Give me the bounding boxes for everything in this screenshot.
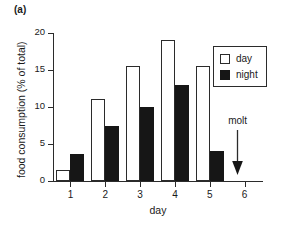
bar-day-day-2 (91, 99, 105, 181)
bar-day-day-5 (196, 66, 210, 181)
x-tick-label-3: 3 (130, 190, 150, 200)
x-axis-line (53, 181, 263, 182)
x-tick-label-2: 2 (95, 190, 115, 200)
x-tick-label-4: 4 (165, 190, 185, 200)
y-tick-label-20: 20 (34, 27, 45, 37)
bar-day-day-4 (161, 40, 175, 181)
x-tick-2 (105, 182, 106, 187)
y-tick-0: 0 (48, 181, 53, 182)
legend-label-day: day (236, 54, 252, 64)
x-tick-label-6: 6 (235, 190, 255, 200)
molt-label: molt (215, 116, 261, 126)
x-tick-6 (245, 182, 246, 187)
x-tick-1 (70, 182, 71, 187)
x-tick-3 (140, 182, 141, 187)
x-tick-4 (175, 182, 176, 187)
legend-label-night: night (236, 70, 258, 80)
bar-day-day-1 (56, 170, 70, 181)
legend-item-day: day (220, 52, 258, 65)
figure-panel-a: (a) 05101520 day food consumption (% of … (0, 0, 293, 229)
legend-swatch-day-icon (220, 54, 230, 64)
y-tick-label-10: 10 (34, 101, 45, 111)
legend-swatch-night-icon (220, 70, 230, 80)
y-axis-title: food consumption (% of total) (16, 18, 30, 178)
x-axis-title: day (53, 205, 263, 216)
bar-night-day-2 (105, 126, 119, 182)
panel-label: (a) (14, 5, 26, 15)
y-tick-label-5: 5 (40, 138, 45, 148)
legend-item-night: night (220, 68, 258, 81)
molt-annotation: molt (215, 116, 261, 176)
bar-night-day-3 (140, 107, 154, 181)
bar-day-day-3 (126, 66, 140, 181)
down-arrow-icon (231, 130, 244, 176)
y-tick-label-0: 0 (40, 175, 45, 185)
bar-night-day-4 (175, 85, 189, 181)
y-tick-label-15: 15 (34, 64, 45, 74)
x-tick-label-5: 5 (200, 190, 220, 200)
x-tick-label-1: 1 (60, 190, 80, 200)
x-tick-5 (210, 182, 211, 187)
legend: day night (213, 46, 267, 87)
bar-night-day-1 (70, 154, 84, 181)
